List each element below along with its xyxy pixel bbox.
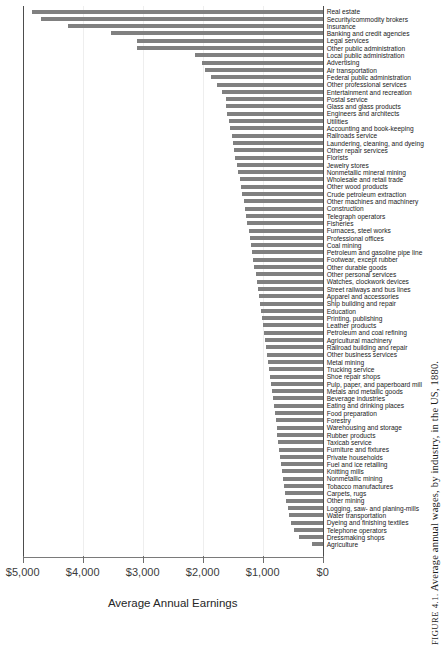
gridline (143, 6, 144, 557)
bar-category-label: Glass and glass products (327, 103, 401, 110)
bar-category-label: Education (327, 308, 356, 315)
bar-category-label: Beverage industries (327, 395, 385, 402)
bar (291, 521, 323, 525)
bar (281, 462, 323, 466)
bar-category-label: Footwear, except rubber (327, 256, 398, 263)
bar (312, 542, 323, 546)
bar-category-label: Rubber products (327, 432, 376, 439)
bar (257, 280, 323, 284)
bar-category-label: Fisheries (327, 220, 354, 227)
bar-category-label: Legal services (327, 37, 369, 44)
bar (274, 404, 323, 408)
bar (137, 39, 323, 43)
bar (279, 448, 323, 452)
bar-category-label: Shoe repair shops (327, 373, 381, 380)
bar-category-label: Apparel and accessories (327, 293, 399, 300)
bar (266, 345, 322, 349)
bar-category-label: Banking and credit agencies (327, 30, 410, 37)
bar (232, 134, 323, 138)
bar (277, 433, 322, 437)
bar-category-label: Taxicab service (327, 439, 372, 446)
bar (275, 411, 323, 415)
figure-caption-body: Average annual wages, by industry, in th… (429, 361, 440, 594)
x-axis-tick (323, 556, 324, 563)
bar-category-label: Insurance (327, 23, 356, 30)
bar (289, 513, 323, 517)
bar (299, 535, 323, 539)
x-axis-tick-label: $2,000 (186, 566, 220, 578)
bar (240, 177, 323, 181)
bar (263, 323, 322, 327)
bar-category-label: Air transportation (327, 67, 377, 74)
bar-category-label: Laundering, cleaning, and dyeing (327, 140, 424, 147)
bar-category-label: Other professional services (327, 81, 407, 88)
bar-category-label: Agricultural machinery (327, 337, 392, 344)
bar-category-label: Leather products (327, 322, 377, 329)
bar (195, 53, 323, 57)
bar-category-label: Metal mining (327, 359, 364, 366)
bar (241, 185, 323, 189)
bar (245, 207, 323, 211)
bar (269, 367, 322, 371)
bar-category-label: Construction (327, 205, 364, 212)
bar-category-label: Local public administration (327, 52, 405, 59)
bar (111, 31, 323, 35)
bar-category-label: Other machines and machinery (327, 198, 419, 205)
bar (270, 375, 323, 379)
x-axis-tick (143, 556, 144, 563)
zero-axis-spine (323, 6, 324, 557)
bar (234, 148, 323, 152)
bar (283, 477, 323, 481)
x-axis-tick (203, 556, 204, 563)
bar-category-label: Federal public administration (327, 74, 411, 81)
bar (265, 338, 322, 342)
bar-category-label: Dyeing and finishing textiles (327, 519, 409, 526)
bar (32, 10, 323, 14)
figure-caption-number: FIGURE 4.1. (430, 593, 440, 645)
bar (273, 396, 323, 400)
bar-category-label: Other business services (327, 351, 397, 358)
bar-category-label: Water transportation (327, 512, 387, 519)
bar (211, 75, 322, 79)
bar-category-label: Wholesale and retail trade (327, 176, 404, 183)
bar-category-label: Ship building and repair (327, 300, 396, 307)
bar (276, 418, 323, 422)
bar-category-label: Forestry (327, 417, 351, 424)
figure-caption: FIGURE 4.1. Average annual wages, by ind… (425, 265, 443, 645)
bar-category-label: Other personal services (327, 271, 397, 278)
bar-category-label: Coal mining (327, 242, 362, 249)
bar (242, 192, 322, 196)
bar (237, 163, 323, 167)
bottom-axis-spine (23, 557, 324, 558)
x-axis-tick-label: $5,000 (6, 566, 40, 578)
x-axis-title: Average Annual Earnings (23, 597, 323, 609)
bar-category-label: Food preparation (327, 410, 377, 417)
bar (238, 170, 323, 174)
chart-plot-area: Real estateSecurity/commodity brokersIns… (23, 6, 323, 557)
bar (261, 309, 323, 313)
bar-category-label: Florists (327, 154, 348, 161)
bar (235, 156, 323, 160)
bar (282, 469, 323, 473)
bar-category-label: Watches, clockwork devices (327, 278, 409, 285)
gridline (203, 6, 204, 557)
bar-category-label: Pulp, paper, and paperboard mill (327, 381, 422, 388)
bar (41, 17, 323, 21)
bar-category-label: Telephone operators (327, 527, 387, 534)
bar-category-label: Professional offices (327, 235, 384, 242)
bar-category-label: Other wood products (327, 183, 388, 190)
bar-category-label: Metals and metallic goods (327, 388, 403, 395)
bar (249, 229, 323, 233)
bar (229, 119, 323, 123)
bar-category-label: Jewelry stores (327, 162, 369, 169)
bar (253, 258, 323, 262)
bar (217, 83, 322, 87)
bar-category-label: Petroleum and gasoline pipe line (327, 249, 423, 256)
bar-category-label: Advertising (327, 59, 360, 66)
x-axis-tick-label: $0 (317, 566, 329, 578)
bar (230, 126, 322, 130)
bar-category-label: Tobacco manufactures (327, 483, 393, 490)
figure-root: Real estateSecurity/commodity brokersIns… (0, 0, 447, 651)
bar (262, 316, 322, 320)
bar (251, 243, 323, 247)
